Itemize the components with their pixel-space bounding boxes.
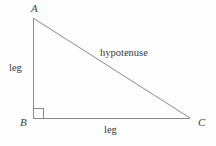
vertex-label-c: C bbox=[198, 117, 205, 128]
vertex-label-a: A bbox=[31, 3, 38, 14]
triangle-side-ac-hypotenuse bbox=[33, 18, 190, 118]
side-label-horizontal-leg: leg bbox=[104, 125, 117, 136]
right-angle-marker-icon bbox=[33, 108, 43, 118]
side-label-hypotenuse: hypotenuse bbox=[100, 48, 148, 59]
side-label-vertical-leg: leg bbox=[9, 63, 22, 74]
figure-canvas: A B C leg leg hypotenuse bbox=[0, 0, 216, 146]
vertex-label-b: B bbox=[20, 117, 27, 128]
